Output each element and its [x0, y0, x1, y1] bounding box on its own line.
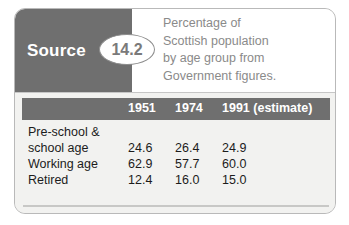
- column-header-1951: 1951: [128, 101, 156, 115]
- source-figure-card: Source 14.2 Percentage of Scottish popul…: [14, 8, 336, 214]
- caption-line-2: Scottish population: [163, 33, 333, 51]
- cell-1974: 57.7: [175, 157, 199, 171]
- row-label: school age: [28, 141, 88, 155]
- table-row: Working age 62.9 57.7 60.0: [15, 157, 336, 173]
- cell-1974: 16.0: [175, 173, 199, 187]
- table-row: school age 24.6 26.4 24.9: [15, 141, 336, 157]
- source-number-badge: 14.2: [99, 34, 155, 65]
- row-label: Retired: [28, 173, 68, 187]
- caption-line-1: Percentage of: [163, 15, 333, 33]
- cell-1974: 26.4: [175, 141, 199, 155]
- table-bottom-rule: [23, 205, 329, 207]
- cell-1991: 15.0: [222, 173, 246, 187]
- table-row: Pre-school &: [15, 125, 336, 141]
- source-number: 14.2: [100, 35, 154, 66]
- row-label: Pre-school &: [28, 125, 100, 139]
- cell-1991: 60.0: [222, 157, 246, 171]
- cell-1951: 24.6: [128, 141, 152, 155]
- table-header-row: 1951 1974 1991 (estimate): [22, 98, 330, 120]
- source-label: Source: [27, 41, 86, 61]
- cell-1991: 24.9: [222, 141, 246, 155]
- data-table: 1951 1974 1991 (estimate) Pre-school & s…: [15, 93, 336, 214]
- cell-1951: 62.9: [128, 157, 152, 171]
- cell-1951: 12.4: [128, 173, 152, 187]
- row-label: Working age: [28, 157, 98, 171]
- table-row: Retired 12.4 16.0 15.0: [15, 173, 336, 189]
- column-header-1991: 1991 (estimate): [222, 101, 312, 115]
- figure-header: Source 14.2 Percentage of Scottish popul…: [15, 9, 336, 93]
- caption-line-4: Government figures.: [163, 68, 333, 86]
- caption-line-3: by age group from: [163, 50, 333, 68]
- figure-caption: Percentage of Scottish population by age…: [163, 15, 333, 85]
- column-header-1974: 1974: [175, 101, 203, 115]
